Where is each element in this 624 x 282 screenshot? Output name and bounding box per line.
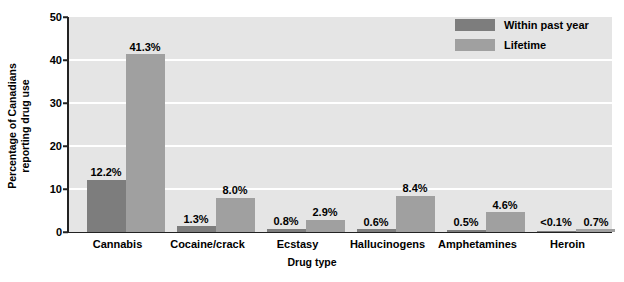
bar-cocaine-crack-lifetime[interactable] <box>216 198 255 232</box>
y-tick-label-30: 30 <box>36 98 62 109</box>
x-tick-label-heroin: Heroin <box>518 238 617 251</box>
bar-cannabis-lifetime[interactable] <box>126 54 165 232</box>
bar-hallucinogens-within-past-year[interactable] <box>357 229 396 232</box>
bar-value-cocaine-crack-lifetime: 8.0% <box>212 184 259 196</box>
bar-cocaine-crack-within-past-year[interactable] <box>177 226 216 232</box>
x-tick-label-amphetamines: Amphetamines <box>428 238 527 251</box>
legend-label-within-past-year: Within past year <box>504 19 589 31</box>
chart-legend: Within past year Lifetime <box>455 16 589 56</box>
bar-heroin-lifetime[interactable] <box>576 229 615 232</box>
legend-swatch-lifetime <box>455 39 495 51</box>
bar-amphetamines-lifetime[interactable] <box>486 212 525 232</box>
legend-item-lifetime[interactable]: Lifetime <box>455 36 589 53</box>
bar-value-hallucinogens-lifetime: 8.4% <box>392 182 439 194</box>
bar-group-hallucinogens: 0.6% 8.4% <box>357 17 435 232</box>
bar-group-cannabis: 12.2% 41.3% <box>87 17 165 232</box>
bar-value-hallucinogens-within-past-year: 0.6% <box>353 216 400 228</box>
x-axis-title: Drug type <box>0 256 624 268</box>
bar-value-cannabis-lifetime: 41.3% <box>122 41 169 53</box>
y-axis-title-line-2: reporting drug use <box>19 63 32 188</box>
y-axis-title-line-1: Percentage of Canadians <box>6 63 19 188</box>
legend-label-lifetime: Lifetime <box>504 39 546 51</box>
bar-amphetamines-within-past-year[interactable] <box>447 230 486 232</box>
bar-group-cocaine-crack: 1.3% 8.0% <box>177 17 255 232</box>
y-tick-label-50: 50 <box>36 12 62 23</box>
bar-hallucinogens-lifetime[interactable] <box>396 196 435 232</box>
legend-item-within-past-year[interactable]: Within past year <box>455 16 589 33</box>
y-axis-tick-labels: 50 40 30 20 10 0 <box>36 0 62 282</box>
x-tick-label-hallucinogens: Hallucinogens <box>338 238 437 251</box>
bar-value-amphetamines-within-past-year: 0.5% <box>443 216 490 228</box>
bar-value-ecstasy-lifetime: 2.9% <box>302 206 349 218</box>
bar-ecstasy-lifetime[interactable] <box>306 220 345 233</box>
y-tick-label-10: 10 <box>36 184 62 195</box>
y-tick-label-0: 0 <box>36 227 62 238</box>
x-tick-label-cannabis: Cannabis <box>68 238 167 251</box>
x-tick-label-ecstasy: Ecstasy <box>248 238 347 251</box>
bar-ecstasy-within-past-year[interactable] <box>267 229 306 232</box>
legend-swatch-within-past-year <box>455 19 495 31</box>
bar-value-cannabis-within-past-year: 12.2% <box>83 166 130 178</box>
bar-cannabis-within-past-year[interactable] <box>87 180 126 233</box>
y-axis-title: Percentage of Canadians reporting drug u… <box>2 26 36 226</box>
bar-chart: Percentage of Canadians reporting drug u… <box>0 0 624 282</box>
y-tick-label-40: 40 <box>36 55 62 66</box>
bar-value-cocaine-crack-within-past-year: 1.3% <box>173 213 220 225</box>
bar-heroin-within-past-year[interactable] <box>537 231 576 232</box>
bar-value-amphetamines-lifetime: 4.6% <box>482 199 529 211</box>
bar-value-heroin-lifetime: 0.7% <box>573 216 620 228</box>
x-tick-label-cocaine-crack: Cocaine/crack <box>158 238 257 251</box>
bar-group-ecstasy: 0.8% 2.9% <box>267 17 345 232</box>
y-tick-label-20: 20 <box>36 141 62 152</box>
